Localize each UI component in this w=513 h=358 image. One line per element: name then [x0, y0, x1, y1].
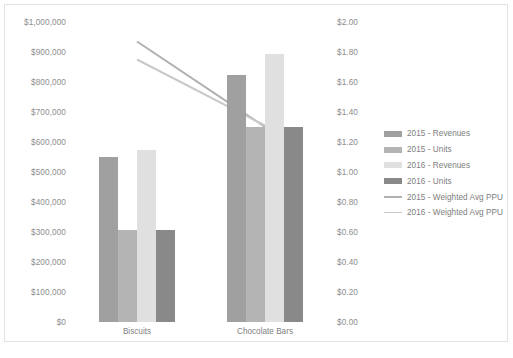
primary-axis-tick: $100,000	[31, 288, 66, 297]
chart-container: $0$100,000$200,000$300,000$400,000$500,0…	[0, 0, 513, 358]
bar	[118, 230, 137, 322]
legend-bar-swatch-icon	[384, 178, 402, 184]
primary-axis-tick: $900,000	[31, 48, 66, 57]
secondary-axis-tick: $1.20	[337, 138, 358, 147]
primary-axis-tick: $600,000	[31, 138, 66, 147]
primary-axis-tick: $500,000	[31, 168, 66, 177]
bar	[137, 150, 156, 323]
chart-legend: 2015 - Revenues2015 - Units2016 - Revenu…	[384, 126, 510, 221]
secondary-axis-tick: $1.60	[337, 78, 358, 87]
secondary-axis-tick: $0.80	[337, 198, 358, 207]
bar	[99, 157, 118, 322]
legend-item[interactable]: 2015 - Weighted Avg PPU	[384, 189, 510, 205]
legend-item[interactable]: 2016 - Weighted Avg PPU	[384, 205, 510, 221]
legend-bar-swatch-icon	[384, 147, 402, 153]
legend-bar-swatch-icon	[384, 162, 402, 168]
secondary-axis-tick: $1.80	[337, 48, 358, 57]
legend-item[interactable]: 2016 - Units	[384, 173, 510, 189]
primary-axis-tick: $700,000	[31, 108, 66, 117]
legend-item-label: 2015 - Revenues	[407, 129, 470, 138]
primary-axis-tick: $1,000,000	[24, 18, 66, 27]
primary-axis-tick: $200,000	[31, 258, 66, 267]
legend-bar-swatch-icon	[384, 131, 402, 137]
primary-y-axis: $0$100,000$200,000$300,000$400,000$500,0…	[0, 0, 66, 358]
legend-item-label: 2015 - Weighted Avg PPU	[407, 193, 503, 202]
secondary-axis-tick: $1.00	[337, 168, 358, 177]
legend-line-swatch-icon	[384, 210, 402, 216]
primary-axis-tick: $0	[57, 318, 66, 327]
secondary-axis-tick: $1.40	[337, 108, 358, 117]
secondary-axis-tick: $0.00	[337, 318, 358, 327]
bar	[284, 127, 303, 322]
bar	[246, 127, 265, 322]
legend-item[interactable]: 2015 - Units	[384, 142, 510, 158]
bar	[156, 230, 175, 322]
legend-item-label: 2016 - Units	[407, 177, 452, 186]
category-axis-label: Chocolate Bars	[237, 327, 293, 336]
category-axis-label: Biscuits	[123, 327, 151, 336]
bar	[265, 54, 284, 323]
secondary-axis-tick: $2.00	[337, 18, 358, 27]
legend-item-label: 2015 - Units	[407, 145, 452, 154]
legend-item[interactable]: 2015 - Revenues	[384, 126, 510, 142]
legend-item-label: 2016 - Revenues	[407, 161, 470, 170]
secondary-axis-tick: $0.40	[337, 258, 358, 267]
legend-item-label: 2016 - Weighted Avg PPU	[407, 208, 503, 217]
secondary-axis-tick: $0.20	[337, 288, 358, 297]
legend-item[interactable]: 2016 - Revenues	[384, 158, 510, 174]
primary-axis-tick: $800,000	[31, 78, 66, 87]
legend-line-swatch-icon	[384, 194, 402, 200]
primary-axis-tick: $300,000	[31, 228, 66, 237]
secondary-axis-tick: $0.60	[337, 228, 358, 237]
plot-area	[73, 22, 329, 322]
bar	[227, 75, 246, 323]
primary-axis-tick: $400,000	[31, 198, 66, 207]
